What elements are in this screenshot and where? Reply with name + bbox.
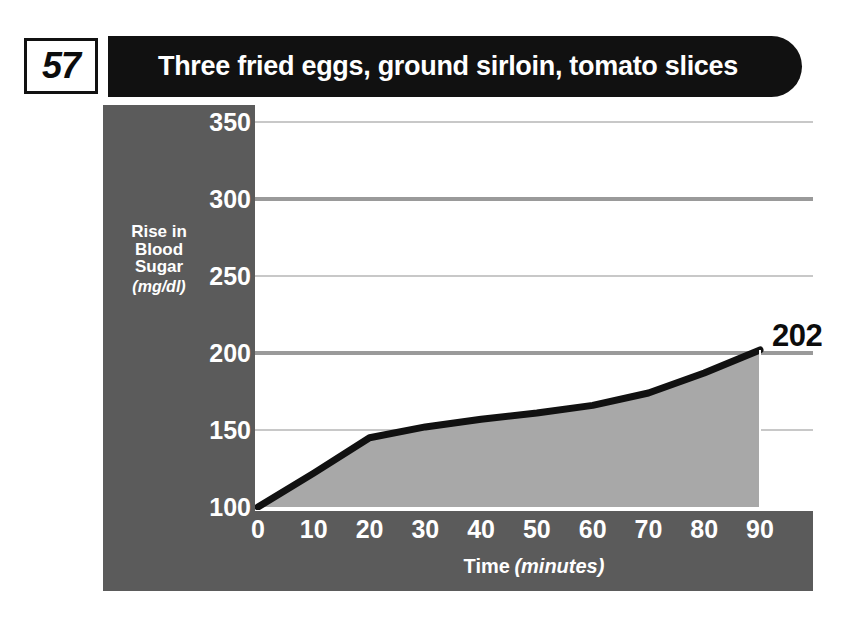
x-tick-label: 30: [395, 515, 455, 544]
y-tick-label: 250: [161, 262, 251, 291]
x-tick-label: 20: [340, 515, 400, 544]
chart-plot-svg: [255, 105, 813, 510]
chart-header: 57 Three fried eggs, ground sirloin, tom…: [0, 36, 860, 98]
y-tick-label: 150: [161, 416, 251, 445]
x-tick-label: 90: [730, 515, 790, 544]
chart-title-bar: Three fried eggs, ground sirloin, tomato…: [108, 36, 802, 97]
x-tick-label: 40: [451, 515, 511, 544]
x-axis-title-unit: (minutes): [514, 555, 604, 577]
x-tick-label: 50: [507, 515, 567, 544]
x-tick-label: 0: [228, 515, 288, 544]
x-tick-label: 80: [674, 515, 734, 544]
chart-container: Rise in Blood Sugar (mg/dl) 100150200250…: [103, 105, 813, 591]
x-tick-label: 10: [284, 515, 344, 544]
y-axis-title-line1: Rise in: [103, 223, 215, 241]
y-tick-label: 300: [161, 185, 251, 214]
page-title: Three fried eggs, ground sirloin, tomato…: [158, 51, 738, 82]
x-tick-label: 70: [618, 515, 678, 544]
x-axis-title-main: Time: [464, 555, 510, 577]
y-tick-label: 350: [161, 108, 251, 137]
chart-number-label: 57: [42, 48, 80, 84]
y-axis-title-line2: Blood: [103, 241, 215, 259]
plot-area: [255, 105, 813, 510]
x-axis-title: Time (minutes): [255, 555, 813, 578]
chart-number-badge: 57: [24, 38, 98, 94]
chart-area-fill: [258, 350, 760, 507]
end-value-callout: 202: [772, 318, 822, 354]
y-tick-label: 200: [161, 339, 251, 368]
x-tick-label: 60: [563, 515, 623, 544]
